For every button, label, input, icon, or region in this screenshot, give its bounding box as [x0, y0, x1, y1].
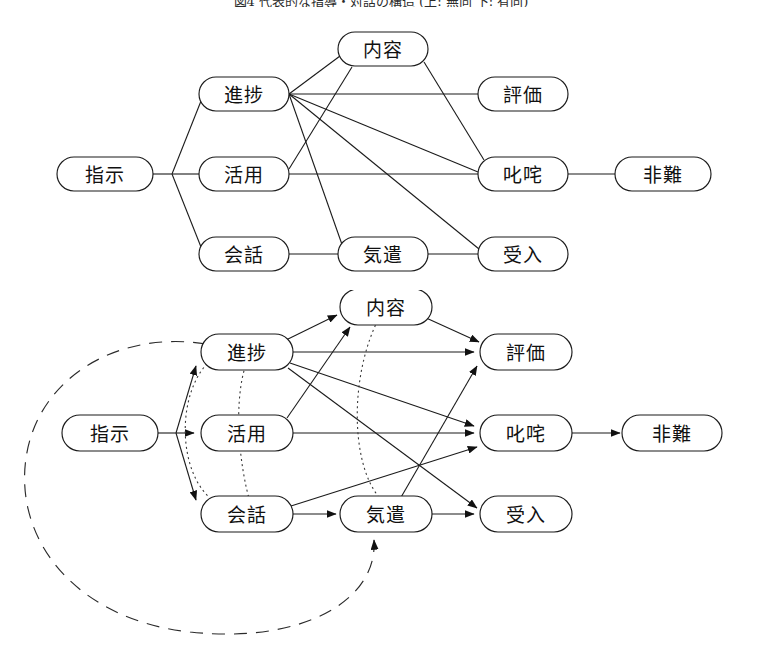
edge-shinchoku-ukeire	[288, 368, 477, 508]
edge-naiyou-shitta	[424, 62, 484, 160]
edge-shinchoku-naiyou	[286, 315, 337, 340]
node-hyouka[interactable]: 評価	[478, 77, 568, 111]
node-kizukai[interactable]: 気遣	[338, 237, 428, 271]
edge-shinchoku-shitta	[289, 94, 478, 172]
node-label-kizukai: 気遣	[366, 504, 406, 526]
edge-shinchoku-ukeire	[289, 94, 479, 249]
node-label-hyouka: 評価	[503, 84, 543, 106]
node-shinchoku[interactable]: 進捗	[201, 334, 293, 370]
edge-dashed-feedback-loop	[25, 342, 375, 635]
figure-page: 図4 代表的な指導・対話の構造 (上: 無向 下: 有向)	[0, 0, 762, 660]
edge-shinchoku-shitta	[290, 363, 474, 426]
node-label-naiyou: 内容	[366, 297, 406, 319]
node-shiji[interactable]: 指示	[57, 157, 153, 191]
node-shiji[interactable]: 指示	[62, 415, 158, 451]
node-hinan[interactable]: 非難	[622, 415, 722, 451]
node-naiyou[interactable]: 内容	[340, 290, 432, 325]
node-label-shiji: 指示	[85, 164, 125, 186]
edge-katsuyou-naiyou	[289, 67, 352, 169]
node-kaiwa[interactable]: 会話	[201, 496, 293, 532]
node-label-shiji: 指示	[90, 423, 130, 445]
edge-naiyou-hyouka	[424, 317, 479, 342]
node-shitta[interactable]: 叱咤	[480, 415, 572, 451]
edge-katsuyou-naiyou	[287, 327, 350, 418]
node-label-hinan: 非難	[652, 423, 692, 445]
edge-shinchoku-naiyou	[289, 56, 340, 94]
bottom-node-layer: 指示進捗活用会話内容気遣評価叱咤受入非難	[62, 290, 722, 532]
node-kizukai[interactable]: 気遣	[340, 496, 432, 532]
node-label-shitta: 叱咤	[503, 164, 543, 186]
node-label-ukeire: 受入	[503, 244, 543, 266]
node-katsuyou[interactable]: 活用	[199, 157, 289, 191]
node-label-kaiwa: 会話	[224, 244, 264, 266]
node-label-katsuyou: 活用	[224, 164, 264, 186]
edge-shiji-shinchoku	[172, 101, 201, 174]
edge-shiji-kaiwa	[172, 174, 201, 247]
node-katsuyou[interactable]: 活用	[201, 415, 293, 451]
edge-shiji-shinchoku	[176, 366, 196, 433]
node-shitta[interactable]: 叱咤	[478, 157, 568, 191]
node-ukeire[interactable]: 受入	[480, 496, 572, 532]
node-label-shinchoku: 進捗	[227, 342, 267, 364]
node-label-kizukai: 気遣	[363, 244, 403, 266]
node-label-kaiwa: 会話	[227, 504, 267, 526]
node-kaiwa[interactable]: 会話	[199, 237, 289, 271]
top-undirected-diagram: 指示進捗活用会話内容気遣評価叱咤受入非難	[0, 0, 762, 300]
node-label-katsuyou: 活用	[227, 423, 267, 445]
node-ukeire[interactable]: 受入	[478, 237, 568, 271]
node-label-naiyou: 内容	[363, 39, 403, 61]
node-hinan[interactable]: 非難	[615, 157, 711, 191]
node-label-shinchoku: 進捗	[224, 84, 264, 106]
node-label-hyouka: 評価	[506, 342, 546, 364]
node-naiyou[interactable]: 内容	[338, 32, 428, 66]
node-label-ukeire: 受入	[506, 504, 546, 526]
node-label-shitta: 叱咤	[506, 423, 546, 445]
node-hyouka[interactable]: 評価	[480, 334, 572, 370]
top-node-layer: 指示進捗活用会話内容気遣評価叱咤受入非難	[57, 32, 711, 271]
node-shinchoku[interactable]: 進捗	[199, 77, 289, 111]
edge-dotted-naiyou-kizukai	[357, 316, 380, 496]
bottom-directed-diagram: 指示進捗活用会話内容気遣評価叱咤受入非難	[0, 290, 762, 660]
node-label-hinan: 非難	[643, 164, 683, 186]
